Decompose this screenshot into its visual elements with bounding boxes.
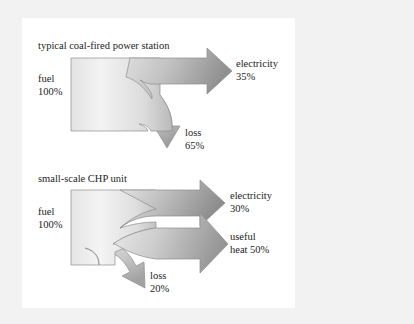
bottom-electricity-value: 30% <box>230 203 250 214</box>
bottom-fuel-value: 100% <box>38 219 63 230</box>
bottom-heat-label: useful <box>230 231 256 242</box>
diagram-coal-power-station: typical coal-fired power station electri… <box>38 40 279 151</box>
bottom-loss-value: 20% <box>150 283 170 294</box>
top-electricity-label: electricity <box>236 58 279 69</box>
top-fuel-label: fuel <box>38 73 54 84</box>
top-electricity-value: 35% <box>236 71 256 82</box>
top-loss-label: loss <box>185 127 201 138</box>
bottom-heat-value: heat 50% <box>230 244 270 255</box>
bottom-electricity-label: electricity <box>230 190 273 201</box>
bottom-fuel-label: fuel <box>38 206 54 217</box>
top-fuel-value: 100% <box>38 86 63 97</box>
diagram-bottom-title: small-scale CHP unit <box>38 173 127 184</box>
diagram-top-title: typical coal-fired power station <box>38 40 170 51</box>
top-loss-value: 65% <box>185 140 205 151</box>
bottom-loss-label: loss <box>150 270 166 281</box>
energy-flow-diagram: typical coal-fired power station electri… <box>0 0 414 324</box>
diagram-small-scale-chp: small-scale CHP unit electricity 30% use… <box>38 173 273 294</box>
